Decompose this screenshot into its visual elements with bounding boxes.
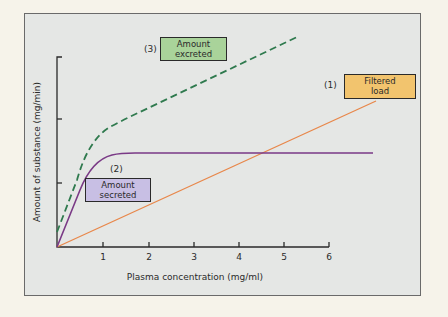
excreted-number: (3) xyxy=(144,44,157,54)
filtered-label-box: Filtered load xyxy=(344,74,416,99)
excreted-line2: excreted xyxy=(161,49,226,59)
series-amount-excreted xyxy=(57,37,297,232)
secreted-line2: secreted xyxy=(86,190,150,200)
excreted-label-box: Amount excreted xyxy=(160,37,227,61)
filtered-line1: Filtered xyxy=(345,76,415,86)
secreted-number: (2) xyxy=(110,164,123,174)
axes xyxy=(57,57,329,247)
filtered-line2: load xyxy=(345,86,415,96)
axis-lines xyxy=(57,57,329,247)
x-tick-label: 1 xyxy=(100,252,106,262)
filtered-number: (1) xyxy=(324,80,337,90)
x-tick-label: 3 xyxy=(191,252,197,262)
excreted-line1: Amount xyxy=(161,39,226,49)
secreted-label-box: Amount secreted xyxy=(85,178,151,202)
x-axis-label: Plasma concentration (mg/ml) xyxy=(127,272,263,282)
secreted-line1: Amount xyxy=(86,180,150,190)
x-tick-label: 2 xyxy=(146,252,152,262)
x-tick-label: 5 xyxy=(281,252,287,262)
x-tick-label: 6 xyxy=(326,252,332,262)
y-axis-label: Amount of substance (mg/min) xyxy=(32,82,42,222)
series-filtered-load xyxy=(57,101,376,247)
x-tick-label: 4 xyxy=(236,252,242,262)
